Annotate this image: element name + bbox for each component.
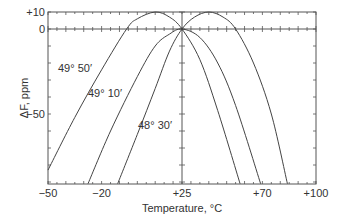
- curve-label: 49° 50′: [58, 62, 92, 74]
- x-tick-label: −50: [39, 187, 58, 199]
- x-tick-label: +70: [253, 187, 272, 199]
- y-tick-label: 0: [39, 23, 45, 35]
- x-tick-label: −20: [92, 187, 111, 199]
- labels: −50−20+25+70+100+100−5049° 50′49° 10′48°…: [26, 6, 328, 199]
- curve-line: [88, 29, 261, 184]
- curve-label: 48° 30′: [138, 119, 172, 131]
- y-axis-label: ΔF, ppm: [18, 78, 30, 118]
- chart: −50−20+25+70+100+100−5049° 50′49° 10′48°…: [0, 0, 343, 221]
- y-tick-label: +10: [26, 6, 45, 18]
- x-tick-label: +25: [173, 187, 192, 199]
- curve-label: 49° 10′: [88, 87, 122, 99]
- x-tick-label: +100: [304, 187, 329, 199]
- curve-line: [118, 12, 288, 184]
- curve-line: [48, 12, 240, 184]
- x-axis-label: Temperature, °C: [142, 202, 222, 214]
- curves: [48, 12, 287, 184]
